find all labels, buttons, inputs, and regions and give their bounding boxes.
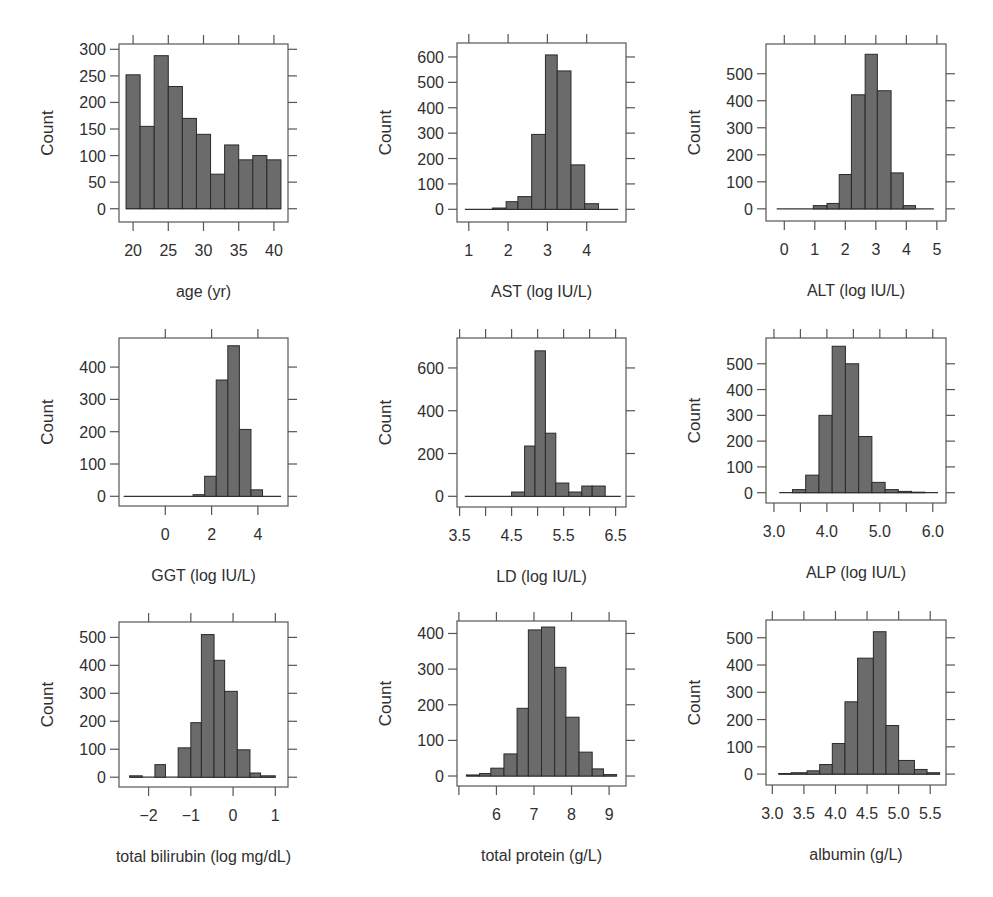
histogram-panel: 0100200300400500−2−101total bilirubin (l… xyxy=(38,613,297,865)
histogram-bar xyxy=(807,771,820,774)
histogram-bar xyxy=(827,203,839,208)
x-tick-label: 8 xyxy=(567,806,576,823)
y-tick-label: 200 xyxy=(726,433,753,450)
histogram-bar xyxy=(140,126,154,208)
histogram-bar xyxy=(535,351,545,496)
y-tick-label: 300 xyxy=(79,41,106,58)
histogram-panel: 01002003004005003.04.05.06.0ALP (log IU/… xyxy=(685,329,955,581)
y-tick-label: 100 xyxy=(417,732,444,749)
histogram-bar xyxy=(585,204,599,210)
y-tick-label: 400 xyxy=(417,625,444,642)
x-axis-label: ALP (log IU/L) xyxy=(806,564,906,581)
y-tick-label: 200 xyxy=(79,94,106,111)
x-axis-label: total protein (g/L) xyxy=(481,847,602,864)
histogram-bar xyxy=(261,776,276,777)
y-tick-label: 0 xyxy=(744,766,753,783)
x-tick-label: 1 xyxy=(810,241,819,258)
histogram-bar xyxy=(178,748,191,777)
x-tick-label: 7 xyxy=(530,806,539,823)
y-tick-label: 300 xyxy=(79,391,106,408)
histogram-bar xyxy=(891,173,903,209)
y-tick-label: 200 xyxy=(417,697,444,714)
x-tick-label: 4.5 xyxy=(856,805,878,822)
histogram-bar xyxy=(545,433,555,496)
x-tick-label: 3.5 xyxy=(448,527,470,544)
x-tick-label: 25 xyxy=(159,242,177,259)
y-tick-label: 300 xyxy=(726,407,753,424)
y-tick-label: 400 xyxy=(79,359,106,376)
y-tick-label: 0 xyxy=(744,201,753,218)
histogram-bar xyxy=(211,174,225,209)
histogram-bar xyxy=(865,54,877,209)
histogram-bar xyxy=(569,492,582,496)
x-tick-label: 4.5 xyxy=(500,527,522,544)
x-tick-label: −2 xyxy=(139,807,157,824)
histogram-bar xyxy=(839,175,851,209)
y-tick-label: 500 xyxy=(79,629,106,646)
x-tick-label: 3 xyxy=(543,242,552,259)
y-tick-label: 0 xyxy=(744,485,753,502)
x-tick-label: 5.5 xyxy=(552,527,574,544)
y-tick-label: 150 xyxy=(79,121,106,138)
y-axis-label: Count xyxy=(376,400,395,446)
y-tick-label: 100 xyxy=(417,176,444,193)
y-tick-label: 300 xyxy=(726,684,753,701)
x-tick-label: 6 xyxy=(492,806,501,823)
histogram-bar xyxy=(480,774,491,776)
histogram-bar xyxy=(466,775,479,776)
y-axis-label: Count xyxy=(38,399,57,445)
histogram-bar xyxy=(216,380,228,496)
x-tick-label: 3.0 xyxy=(763,523,785,540)
histogram-panel: 01002003004006789total protein (g/L)Coun… xyxy=(376,612,635,864)
y-tick-label: 0 xyxy=(97,488,106,505)
y-axis-label: Count xyxy=(38,682,57,728)
y-tick-label: 0 xyxy=(435,768,444,785)
y-tick-label: 300 xyxy=(417,661,444,678)
y-tick-label: 0 xyxy=(97,201,106,218)
x-axis-label: total bilirubin (log mg/dL) xyxy=(116,848,291,865)
histogram-bar xyxy=(155,765,166,778)
y-tick-label: 400 xyxy=(726,657,753,674)
histogram-bar xyxy=(193,495,205,497)
histogram-bar xyxy=(845,364,858,493)
y-tick-label: 200 xyxy=(79,713,106,730)
histogram-bar xyxy=(525,446,535,496)
histogram-bar xyxy=(885,490,898,493)
x-tick-label: 6.5 xyxy=(604,527,626,544)
x-tick-label: 0 xyxy=(229,807,238,824)
y-tick-label: 300 xyxy=(417,125,444,142)
y-tick-label: 200 xyxy=(726,712,753,729)
x-tick-label: 4.0 xyxy=(824,805,846,822)
x-tick-label: 0 xyxy=(161,526,170,543)
y-tick-label: 0 xyxy=(435,488,444,505)
histogram-bar xyxy=(239,429,251,496)
histogram-bar xyxy=(779,774,792,775)
y-tick-label: 0 xyxy=(97,769,106,786)
y-tick-label: 0 xyxy=(435,201,444,218)
x-tick-label: 5.5 xyxy=(919,805,941,822)
histogram-panel: 01002003004005006001234AST (log IU/L)Cou… xyxy=(376,34,635,300)
y-tick-label: 500 xyxy=(726,356,753,373)
x-tick-label: 40 xyxy=(265,242,283,259)
y-axis-label: Count xyxy=(685,398,704,444)
histogram-bar xyxy=(512,492,525,496)
histogram-bar xyxy=(154,56,168,209)
x-tick-label: 5.0 xyxy=(869,523,891,540)
y-axis-label: Count xyxy=(376,681,395,727)
y-axis-label: Count xyxy=(38,110,57,156)
x-tick-label: 20 xyxy=(124,242,142,259)
histogram-bar xyxy=(253,156,267,209)
histogram-bar xyxy=(201,635,214,778)
y-tick-label: 600 xyxy=(417,360,444,377)
y-tick-label: 100 xyxy=(79,456,106,473)
y-tick-label: 500 xyxy=(726,630,753,647)
histogram-bar xyxy=(250,773,261,777)
histogram-bar xyxy=(518,197,532,210)
histogram-bar xyxy=(506,202,518,210)
histogram-bar xyxy=(225,691,238,777)
histogram-bar xyxy=(592,486,605,496)
histogram-bar xyxy=(592,769,603,776)
x-axis-label: age (yr) xyxy=(176,283,231,300)
x-tick-label: 1 xyxy=(464,242,473,259)
histogram-bar xyxy=(912,492,925,493)
